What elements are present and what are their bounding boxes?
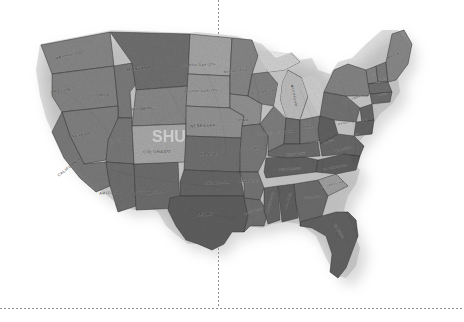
us-map: SHU WASHINGTONOREGONIDAHOMONTANAWYOMINGN… [0,0,464,322]
watermark: SHU [152,128,186,145]
state-label-IA: IOWA [237,118,249,122]
state-label-KS: KANSAS [200,151,219,156]
us-map-svg: SHU WASHINGTONOREGONIDAHOMONTANAWYOMINGN… [0,0,464,322]
watermark-text: SHU [152,128,186,145]
state-label-OH: OHIO [303,125,315,130]
state-label-CO: COLORADO [143,149,171,155]
state-label-TX: TEXAS [196,212,213,218]
map-canvas: SHU WASHINGTONOREGONIDAHOMONTANAWYOMINGN… [0,0,464,322]
